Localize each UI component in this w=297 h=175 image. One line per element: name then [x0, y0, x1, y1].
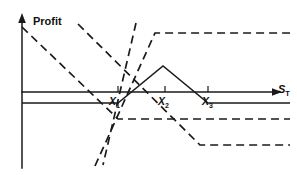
payoff-line-long-call-high-strike	[103, 23, 136, 165]
tick-label-x1: X1	[109, 96, 120, 109]
payoff-line-short-call-low-strike	[22, 27, 290, 119]
x-axis-label-subscript: T	[285, 89, 290, 98]
tick-label-x3-subscript: 3	[209, 102, 213, 109]
tick-label-x1-text: X	[109, 95, 116, 107]
tick-label-x2-subscript: 2	[165, 102, 169, 109]
payoff-line-short-call-mid-strike	[95, 33, 290, 166]
x-axis-label: ST	[278, 84, 290, 98]
profit-diagram-figure: Profit ST X1 X2 X3	[0, 0, 297, 175]
payoff-line-long-call-mid-strike-upper	[78, 24, 290, 145]
payoff-line-butterfly-total	[22, 66, 290, 103]
y-axis-arrow-icon	[18, 13, 26, 23]
tick-label-x3: X3	[202, 96, 213, 109]
y-axis-label: Profit	[33, 16, 62, 27]
tick-label-x2: X2	[158, 96, 169, 109]
tick-label-x3-text: X	[202, 95, 209, 107]
tick-label-x2-text: X	[158, 95, 165, 107]
tick-label-x1-subscript: 1	[116, 102, 120, 109]
